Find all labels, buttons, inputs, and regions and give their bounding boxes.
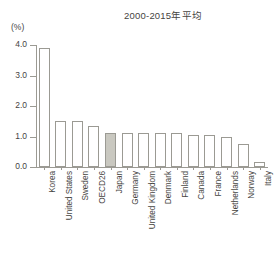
chart-title: 2000-2015年平均 [58, 8, 268, 22]
bar-denmark[interactable] [155, 133, 166, 167]
bar-finland[interactable] [171, 133, 182, 167]
y-tick-label: 1.0 [15, 131, 27, 141]
x-label-slot: United States [53, 170, 70, 250]
bar-slot [53, 45, 70, 167]
bar-slot [185, 45, 202, 167]
bar-slot [102, 45, 119, 167]
y-axis-unit-label: (%) [11, 22, 24, 32]
bar-slot [235, 45, 252, 167]
y-tick-label: 2.0 [15, 100, 27, 110]
x-label-slot: Denmark [152, 170, 169, 250]
bar-slot [202, 45, 219, 167]
x-label-slot: Japan [102, 170, 119, 250]
bar-france[interactable] [204, 135, 215, 167]
bar-slot [36, 45, 53, 167]
x-label-slot: Netherlands [218, 170, 235, 250]
x-label-slot: France [202, 170, 219, 250]
x-label-slot: OECD26 [86, 170, 103, 250]
bar-slot [135, 45, 152, 167]
bar-slot [152, 45, 169, 167]
bar-slot [69, 45, 86, 167]
y-tick-label: 3.0 [15, 70, 27, 80]
y-tick-label: 4.0 [15, 39, 27, 49]
bar-slot [119, 45, 136, 167]
bar-united-kingdom[interactable] [138, 133, 149, 167]
x-axis-line [36, 167, 268, 168]
bar-slot [218, 45, 235, 167]
y-tick-0.0: 0.0 [30, 167, 36, 168]
x-label-italy: Italy [264, 171, 273, 186]
x-label-slot: Sweden [69, 170, 86, 250]
bar-korea[interactable] [39, 48, 50, 167]
bar-slot [86, 45, 103, 167]
bar-canada[interactable] [188, 135, 199, 167]
x-label-slot: Korea [36, 170, 53, 250]
bar-oecd26[interactable] [88, 126, 99, 167]
bar-netherlands[interactable] [221, 137, 232, 168]
bar-united-states[interactable] [55, 121, 66, 167]
bars-layer [36, 45, 268, 167]
x-label-slot: Italy [251, 170, 268, 250]
y-tick-label: 0.0 [15, 161, 27, 171]
bar-slot [251, 45, 268, 167]
bar-norway[interactable] [238, 144, 249, 167]
bar-chart-figure: 2000-2015年平均 (%) 0.01.02.03.04.0 KoreaUn… [0, 0, 275, 253]
x-label-slot: United Kingdom [135, 170, 152, 250]
x-label-slot: Germany [119, 170, 136, 250]
bar-germany[interactable] [122, 133, 133, 167]
bar-slot [169, 45, 186, 167]
x-label-slot: Canada [185, 170, 202, 250]
x-label-slot: Finland [169, 170, 186, 250]
x-axis-labels: KoreaUnited StatesSwedenOECD26JapanGerma… [36, 170, 268, 252]
bar-sweden[interactable] [72, 121, 83, 167]
x-label-slot: Norway [235, 170, 252, 250]
bar-japan[interactable] [105, 133, 116, 167]
